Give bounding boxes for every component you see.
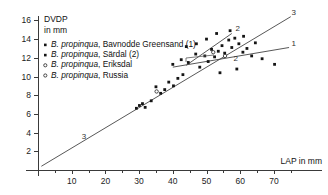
data-point-filled: [246, 47, 249, 50]
data-point-filled: [227, 39, 230, 42]
data-point-filled: [163, 88, 166, 91]
x-tick-label: 60: [235, 176, 245, 186]
legend-genus-0: B. propinqua: [51, 39, 98, 49]
data-point-filled: [205, 38, 208, 41]
data-point-filled: [138, 104, 141, 107]
data-point-filled: [194, 53, 197, 56]
y-tick-label: 4: [26, 128, 31, 138]
data-point-filled: [171, 63, 174, 66]
data-point-filled: [254, 41, 257, 44]
line-label-3-0: 3: [82, 132, 87, 141]
data-point-open: [155, 90, 158, 93]
data-point-filled: [237, 42, 240, 45]
data-point-filled: [233, 37, 236, 40]
line-label-3-1: 3: [291, 8, 296, 17]
y-tick-label: 14: [22, 34, 32, 44]
legend-locality-0: , Bavnodde Greensand (1): [98, 39, 196, 49]
scatter-plot: 10203040506070246810121416DVDPin mmLAP i…: [0, 0, 328, 195]
data-point-filled: [217, 50, 220, 53]
data-point-filled: [241, 51, 244, 54]
legend-genus-2: B. propinqua: [51, 59, 98, 69]
data-point-filled: [215, 32, 218, 35]
legend-item-1: B. propinqua, Särdal (2): [51, 49, 139, 59]
legend-locality-1: , Särdal (2): [98, 49, 139, 59]
legend-marker-filled-1: [44, 54, 47, 57]
data-point-filled: [219, 71, 222, 74]
data-point-filled: [180, 58, 183, 61]
data-point-filled: [144, 106, 147, 109]
line-label-2-4: 2: [233, 54, 238, 63]
y-tick-label: 6: [26, 109, 31, 119]
data-point-filled: [207, 60, 210, 63]
data-point-filled: [172, 84, 175, 87]
legend-marker-filled-0: [44, 44, 47, 47]
legend-locality-3: , Russia: [98, 70, 128, 80]
data-point-filled: [213, 55, 216, 58]
y-axis-title-line2: in mm: [44, 25, 67, 35]
data-point-open: [223, 54, 226, 57]
data-point-filled: [155, 85, 158, 88]
legend-genus-1: B. propinqua: [51, 49, 98, 59]
x-tick-label: 10: [67, 176, 77, 186]
data-point-filled: [235, 68, 238, 71]
data-point-filled: [182, 73, 185, 76]
legend-locality-2: , Eriksdal: [98, 59, 132, 69]
data-point-filled: [273, 63, 276, 66]
y-tick-label: 2: [26, 146, 31, 156]
data-point-filled: [198, 66, 201, 69]
x-tick-label: 40: [168, 176, 178, 186]
y-axis-title-line1: DVDP: [44, 14, 68, 24]
x-tick-label: 30: [134, 176, 144, 186]
y-tick-label: 10: [22, 72, 32, 82]
data-point-filled: [167, 81, 170, 84]
legend-item-3: B. propinqua, Russia: [51, 70, 128, 80]
data-point-filled: [261, 57, 264, 60]
data-point-filled: [230, 46, 233, 49]
line-label-2-3: 2: [235, 24, 240, 33]
data-point-filled: [229, 29, 232, 32]
data-point-open: [212, 50, 215, 53]
legend-genus-3: B. propinqua: [51, 70, 98, 80]
data-point-filled: [150, 99, 153, 102]
legend-marker-open-2: [44, 64, 47, 67]
legend-item-2: B. propinqua, Eriksdal: [51, 59, 132, 69]
x-axis-title: LAP in mm: [281, 156, 322, 166]
x-tick-label: 50: [202, 176, 212, 186]
data-point-filled: [250, 55, 253, 58]
data-point-filled: [221, 44, 224, 47]
data-point-filled: [135, 107, 138, 110]
legend-marker-open-3: [44, 74, 47, 77]
y-tick-label: 12: [22, 53, 32, 63]
data-point-filled: [159, 92, 162, 95]
y-tick-label: 16: [22, 15, 32, 25]
data-point-filled: [242, 35, 245, 38]
line-label-1-2: 1: [291, 39, 296, 48]
data-point-filled: [141, 102, 144, 105]
chart-figure: 10203040506070246810121416DVDPin mmLAP i…: [0, 0, 328, 195]
x-tick-label: 20: [101, 176, 111, 186]
data-point-filled: [187, 61, 190, 64]
y-tick-label: 8: [26, 90, 31, 100]
legend-item-0: B. propinqua, Bavnodde Greensand (1): [51, 39, 196, 49]
data-point-filled: [176, 77, 179, 80]
x-tick-label: 70: [269, 176, 279, 186]
